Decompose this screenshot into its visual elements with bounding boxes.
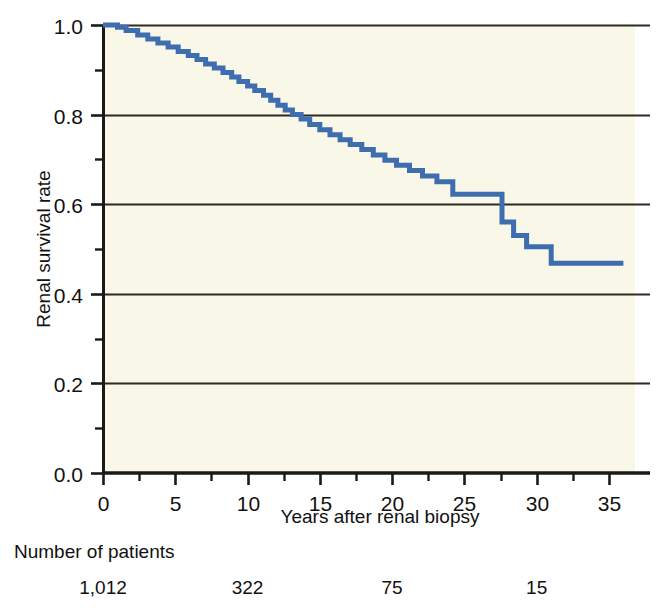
renal-survival-figure: 0.00.20.40.60.81.0 05101520253035 Renal … [0, 0, 659, 615]
y-tick-label: 0.0 [54, 463, 83, 486]
risk-table-value: 1,012 [79, 577, 127, 599]
x-tick-label: 5 [170, 492, 182, 515]
x-axis-title: Years after renal biopsy [281, 506, 480, 527]
x-tick-label: 35 [598, 492, 621, 515]
risk-table-title: Number of patients [14, 541, 175, 563]
x-axis-ticks [104, 473, 610, 485]
survival-chart: 0.00.20.40.60.81.0 05101520253035 Renal … [0, 0, 659, 615]
y-axis-tick-labels: 0.00.20.40.60.81.0 [54, 15, 84, 486]
x-tick-label: 30 [526, 492, 549, 515]
y-tick-label: 0.4 [54, 284, 84, 307]
risk-table-value: 15 [526, 577, 547, 599]
y-tick-label: 0.2 [54, 373, 83, 396]
y-tick-label: 0.8 [54, 105, 83, 128]
x-tick-label: 10 [237, 492, 260, 515]
risk-table-value: 322 [232, 577, 264, 599]
y-tick-label: 0.6 [54, 194, 83, 217]
y-tick-label: 1.0 [54, 15, 83, 38]
x-tick-label: 0 [98, 492, 110, 515]
plot-area-background [103, 25, 635, 473]
y-axis-ticks [91, 26, 103, 474]
y-axis-title: Renal survival rate [33, 170, 54, 327]
risk-table-value: 75 [382, 577, 403, 599]
